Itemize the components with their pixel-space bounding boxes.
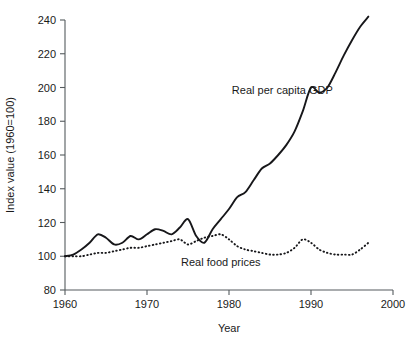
y-tick-label: 180 — [38, 115, 56, 127]
line-chart: 80100120140160180200220240 1960197019801… — [0, 0, 419, 342]
y-axis-tick-labels: 80100120140160180200220240 — [38, 14, 56, 296]
y-tick-label: 140 — [38, 183, 56, 195]
y-tick-label: 240 — [38, 14, 56, 26]
x-tick-label: 1980 — [217, 298, 241, 310]
x-tick-label: 1990 — [299, 298, 323, 310]
x-tick-label: 2000 — [381, 298, 405, 310]
y-tick-label: 100 — [38, 250, 56, 262]
y-axis-title: Index value (1960=100) — [4, 97, 16, 213]
food-label: Real food prices — [181, 256, 261, 268]
gdp-label: Real per capita GDP — [232, 84, 333, 96]
y-axis-ticks — [60, 20, 65, 290]
x-tick-label: 1960 — [53, 298, 77, 310]
series-real-food-prices — [65, 234, 368, 256]
x-tick-label: 1970 — [135, 298, 159, 310]
y-tick-label: 200 — [38, 82, 56, 94]
series-real-per-capita-gdp — [65, 17, 368, 257]
x-axis-ticks — [65, 290, 393, 295]
y-tick-label: 160 — [38, 149, 56, 161]
x-axis-tick-labels: 19601970198019902000 — [53, 298, 405, 310]
chart-container: 80100120140160180200220240 1960197019801… — [0, 0, 419, 342]
y-tick-label: 80 — [44, 284, 56, 296]
y-tick-label: 220 — [38, 48, 56, 60]
x-axis-title: Year — [218, 322, 241, 334]
y-tick-label: 120 — [38, 217, 56, 229]
